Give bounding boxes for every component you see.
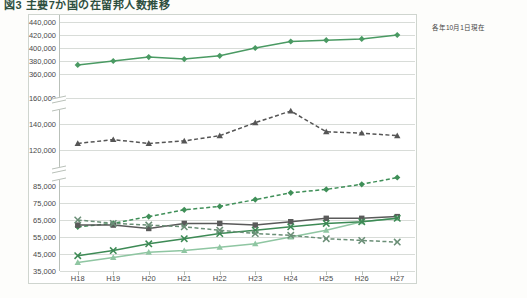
y-axis-tick-label: 400,000 <box>29 44 56 53</box>
x-axis-tick-label: H21 <box>177 274 191 283</box>
legend-note: 各年10月1日現在 <box>432 22 485 32</box>
x-axis-tick <box>220 271 221 275</box>
y-axis-tick-label: 75,000 <box>33 199 56 208</box>
y-axis-tick-label: 360,000 <box>29 70 56 79</box>
x-axis-tick <box>362 271 363 275</box>
x-axis-tick-label: H25 <box>319 274 333 283</box>
y-axis-tick-label: 120,000 <box>29 146 56 155</box>
y-axis-labels: 360,000380,000400,000420,000440,000120,0… <box>0 0 56 298</box>
x-axis-tick-label: H23 <box>248 274 262 283</box>
y-axis-tick-label: 35,000 <box>33 267 56 276</box>
x-axis-tick <box>184 271 185 275</box>
series-米国 <box>75 32 401 68</box>
x-axis-tick-label: H20 <box>142 274 156 283</box>
x-axis-tick-label: H27 <box>390 274 404 283</box>
x-axis-tick <box>326 271 327 275</box>
chart-plot-area <box>60 15 415 271</box>
x-axis-tick-label: H22 <box>213 274 227 283</box>
y-axis-tick-label: 420,000 <box>29 31 56 40</box>
y-axis-tick-label: 55,000 <box>33 233 56 242</box>
y-axis-tick-label: 440,000 <box>29 18 56 27</box>
chart-root: 図3 主要7か国の在留邦人数推移 360,000380,000400,00042… <box>0 0 527 298</box>
x-axis-tick <box>149 271 150 275</box>
x-axis-tick-label: H26 <box>355 274 369 283</box>
y-axis-tick-label: 380,000 <box>29 57 56 66</box>
series-中国 <box>75 108 401 146</box>
x-axis-tick <box>291 271 292 275</box>
x-axis-tick <box>113 271 114 275</box>
y-axis-tick-label: 45,000 <box>33 250 56 259</box>
x-axis-tick-label: H19 <box>106 274 120 283</box>
x-axis-tick-label: H24 <box>284 274 298 283</box>
x-axis-tick <box>397 271 398 275</box>
x-axis-tick <box>255 271 256 275</box>
x-axis-tick-label: H18 <box>71 274 85 283</box>
x-axis-tick <box>78 271 79 275</box>
y-axis-tick-label: 85,000 <box>33 182 56 191</box>
y-axis-tick-label: 65,000 <box>33 216 56 225</box>
y-axis-tick-label: 140,000 <box>29 120 56 129</box>
